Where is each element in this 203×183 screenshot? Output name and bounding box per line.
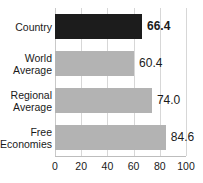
bar-free-economies — [55, 125, 166, 150]
category-label-country: Country — [0, 21, 52, 33]
bar-country — [55, 14, 142, 39]
x-tick-label: 80 — [154, 158, 166, 174]
x-axis-line — [55, 156, 186, 157]
bar-value-label: 66.4 — [147, 14, 170, 39]
bar-value-label: 84.6 — [171, 125, 194, 150]
x-tick-label: 20 — [75, 158, 87, 174]
category-label-line: Average — [0, 64, 52, 76]
x-axis-tick-labels: 020406080100 — [55, 158, 186, 176]
x-tick-label: 60 — [128, 158, 140, 174]
category-label-line: World — [0, 52, 52, 64]
category-label-line: Regional — [0, 89, 52, 101]
bar-world-average — [55, 51, 134, 76]
bar-value-label: 74.0 — [157, 88, 180, 113]
category-label-free-economies: FreeEconomies — [0, 126, 52, 150]
category-label-regional-average: RegionalAverage — [0, 89, 52, 113]
category-label-line: Country — [0, 21, 52, 33]
category-label-line: Free — [0, 126, 52, 138]
x-tick-label: 0 — [52, 158, 58, 174]
category-axis-labels: CountryWorldAverageRegionalAverageFreeEc… — [0, 8, 52, 156]
category-label-line: Economies — [0, 138, 52, 150]
category-label-line: Average — [0, 101, 52, 113]
horizontal-bar-chart: Economic Freedom Score CountryWorldAvera… — [0, 0, 203, 183]
chart-title-clipped: Economic Freedom Score — [0, 0, 203, 5]
chart-title: Economic Freedom Score — [0, 0, 203, 2]
bar-value-label: 60.4 — [139, 51, 162, 76]
category-label-world-average: WorldAverage — [0, 52, 52, 76]
x-tick-label: 40 — [102, 158, 114, 174]
x-tick-label: 100 — [177, 158, 195, 174]
bar-regional-average — [55, 88, 152, 113]
plot-area: 66.460.474.084.6 — [55, 8, 186, 156]
